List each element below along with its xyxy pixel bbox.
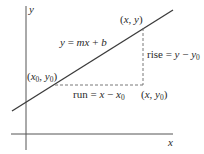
point-x0-y0-label: (x0, y0)	[27, 70, 57, 84]
slope-diagram: y x y = mx + b (x, y) (x0, y0) (x, y0) r…	[0, 0, 204, 154]
y-axis-label: y	[28, 3, 34, 15]
run-label: run = x − x0	[73, 88, 125, 102]
point-x-y-label: (x, y)	[120, 13, 143, 26]
equation-label: y = mx + b	[59, 36, 107, 48]
point-x-y0-label: (x, y0)	[141, 88, 168, 102]
x-axis-label: x	[167, 136, 173, 148]
rise-label: rise = y − y0	[147, 48, 200, 62]
